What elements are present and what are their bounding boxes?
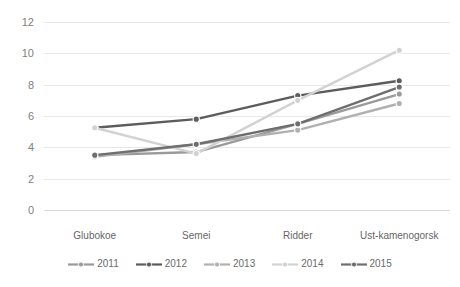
legend-marker-icon [68,260,94,269]
line-chart: 024681012 GlubokoeSemeiRidderUst-kamenog… [0,0,460,287]
y-axis-tick-label: 6 [28,111,34,122]
plot-area [44,22,450,210]
data-point-marker [295,121,301,127]
data-point-marker [92,125,98,131]
series-line [95,103,400,156]
legend-item-2011[interactable]: 2011 [68,259,119,269]
data-point-marker [295,127,301,133]
legend-marker-icon [272,260,298,269]
data-point-marker [396,47,402,53]
legend-marker-icon [204,260,230,269]
gridline [44,210,450,211]
legend-item-2012[interactable]: 2012 [136,259,187,269]
x-axis-tick-label: Ridder [283,231,312,241]
y-axis-tick-label: 0 [28,205,34,216]
legend-marker-icon [341,260,367,269]
y-axis-tick-label: 10 [22,48,34,59]
y-axis-tick-label: 2 [28,174,34,185]
legend-label: 2014 [301,259,323,269]
x-axis-tick-label: Glubokoe [73,231,116,241]
legend-label: 2015 [370,259,392,269]
data-point-marker [396,91,402,97]
data-point-marker [92,152,98,158]
x-axis-tick-label: Semei [182,231,210,241]
legend-marker-icon [136,260,162,269]
data-point-marker [193,141,199,147]
legend-label: 2012 [165,259,187,269]
x-axis-labels: GlubokoeSemeiRidderUst-kamenogorsk [44,231,450,247]
series-layer [44,22,450,210]
data-point-marker [193,116,199,122]
data-point-marker [295,97,301,103]
y-axis-tick-label: 8 [28,80,34,91]
legend-item-2015[interactable]: 2015 [341,259,392,269]
legend-item-2014[interactable]: 2014 [272,259,323,269]
chart-legend: 20112012201320142015 [0,259,460,269]
data-point-marker [396,84,402,90]
legend-label: 2011 [97,259,119,269]
legend-label: 2013 [233,259,255,269]
x-axis-tick-label: Ust-kamenogorsk [360,231,438,241]
legend-item-2013[interactable]: 2013 [204,259,255,269]
data-point-marker [193,151,199,157]
y-axis-tick-label: 12 [22,17,34,28]
y-axis-tick-label: 4 [28,142,34,153]
y-axis: 024681012 [0,0,40,287]
data-point-marker [396,100,402,106]
series-line [95,87,400,155]
data-point-marker [396,78,402,84]
